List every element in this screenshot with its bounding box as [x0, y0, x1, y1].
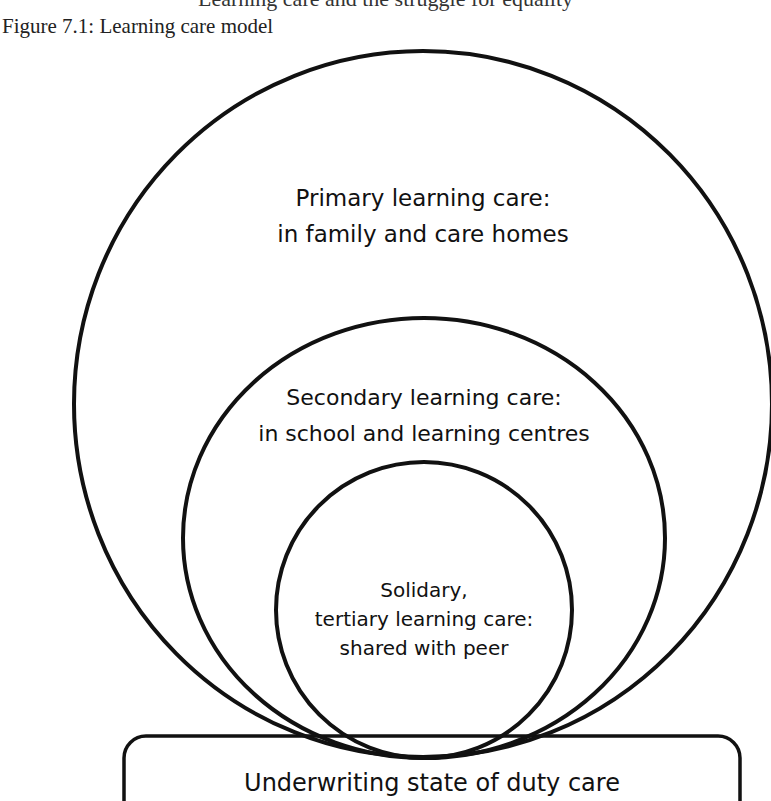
tertiary-care-line2: tertiary learning care: — [289, 605, 559, 634]
secondary-care-title: Secondary learning care: — [204, 380, 644, 416]
tertiary-care-label: Solidary, tertiary learning care: shared… — [289, 576, 559, 663]
primary-care-title: Primary learning care: — [223, 180, 623, 216]
primary-care-subtitle: in family and care homes — [223, 216, 623, 252]
tertiary-care-line3: shared with peer — [289, 634, 559, 663]
base-label: Underwriting state of duty care — [123, 768, 741, 799]
secondary-care-label: Secondary learning care: in school and l… — [204, 380, 644, 452]
secondary-care-subtitle: in school and learning centres — [204, 416, 644, 452]
primary-care-label: Primary learning care: in family and car… — [223, 180, 623, 252]
tertiary-care-line1: Solidary, — [289, 576, 559, 605]
